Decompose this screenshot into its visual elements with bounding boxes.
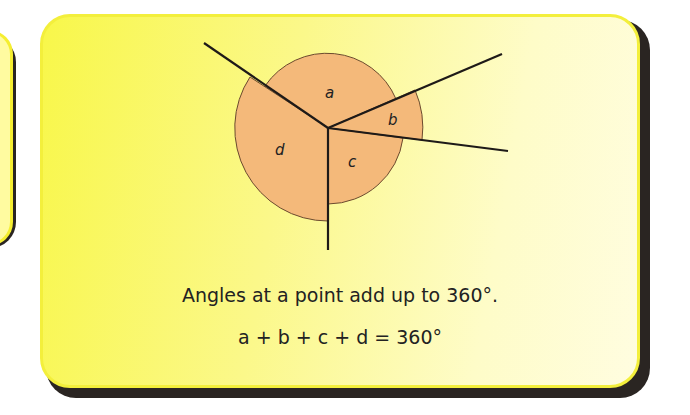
label-d: d: [275, 141, 285, 159]
label-b: b: [388, 111, 398, 129]
label-c: c: [348, 153, 357, 171]
sector-c: [328, 128, 403, 204]
angles-diagram: a b c d: [0, 0, 690, 415]
label-a: a: [325, 84, 334, 102]
statement-text: Angles at a point add up to 360°.: [40, 284, 640, 306]
equation-text: a + b + c + d = 360°: [40, 326, 640, 348]
